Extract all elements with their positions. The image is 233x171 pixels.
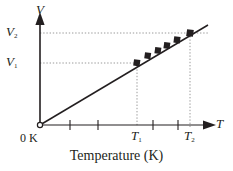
origin-marker [37,122,42,127]
x-tick-label-t2: T2 [184,128,195,144]
data-point [154,47,161,54]
data-point [144,52,151,59]
x-tick-label-t1: T1 [131,128,142,144]
y-tick-label-v2-text: V [6,24,14,39]
x-axis-arrowhead [203,121,216,130]
data-point [186,29,194,37]
gas-law-figure: V V2 V1 T1 T2 T 0 K Temperature (K) [0,0,233,171]
y-tick-label-v1-text: V [6,54,14,69]
y-axis-label: V [36,2,44,18]
figure-caption: Temperature (K) [0,148,233,164]
fit-line [40,25,208,125]
data-point [133,59,140,66]
y-tick-label-v1-sub: 1 [14,62,18,70]
x-tick-label-t1-sub: 1 [138,136,142,144]
y-tick-label-v2-sub: 2 [14,32,18,40]
x-axis-label: T [216,116,223,132]
x-tick-label-t2-sub: 2 [191,136,195,144]
origin-label: 0 K [20,131,38,146]
y-tick-label-v1: V1 [6,54,17,70]
data-point [163,42,170,49]
data-point [173,36,180,43]
y-tick-label-v2: V2 [6,24,17,40]
